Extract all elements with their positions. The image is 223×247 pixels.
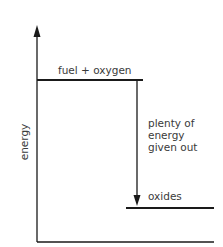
arrow-label-line-1: plenty of xyxy=(148,117,195,129)
level-label-fuel-oxygen: fuel + oxygen xyxy=(58,64,132,76)
level-label-oxides: oxides xyxy=(148,190,182,202)
down-arrowhead-icon xyxy=(134,195,141,206)
arrow-label-line-2: energy xyxy=(148,129,185,141)
y-axis-arrowhead-icon xyxy=(34,25,41,37)
y-axis-label: energy xyxy=(18,122,30,162)
arrow-label-line-3: given out xyxy=(148,141,197,153)
